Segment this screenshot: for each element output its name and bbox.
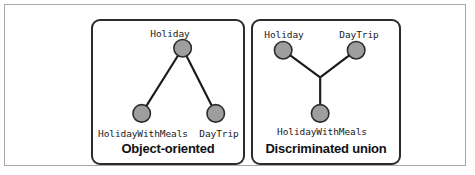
panel-discriminated-union: Holiday DayTrip HolidayWithMeals Discrim… bbox=[251, 19, 401, 165]
edge-holiday-to-holidaywithmeals bbox=[142, 48, 183, 113]
node-daytrip bbox=[207, 105, 225, 123]
node-label-daytrip: DayTrip bbox=[324, 29, 394, 40]
panel-caption-discriminated-union: Discriminated union bbox=[253, 141, 399, 156]
panel-caption-object-oriented: Object-oriented bbox=[93, 141, 243, 156]
node-label-daytrip: DayTrip bbox=[184, 128, 254, 139]
edge-holiday-to-daytrip bbox=[183, 48, 216, 113]
node-holiday bbox=[274, 41, 292, 59]
figure-outer-frame: Holiday HolidayWithMeals DayTrip Object-… bbox=[4, 4, 466, 166]
node-label-holiday: Holiday bbox=[249, 29, 319, 40]
node-label-holidaywithmeals: HolidayWithMeals bbox=[91, 128, 195, 139]
node-holidaywithmeals bbox=[133, 105, 151, 123]
figure-container: Holiday HolidayWithMeals DayTrip Object-… bbox=[0, 0, 475, 175]
node-holiday bbox=[174, 39, 192, 57]
panel-object-oriented: Holiday HolidayWithMeals DayTrip Object-… bbox=[91, 19, 245, 165]
node-holidaywithmeals bbox=[311, 105, 329, 123]
node-label-holidaywithmeals: HolidayWithMeals bbox=[270, 126, 374, 137]
node-label-holiday: Holiday bbox=[93, 28, 247, 39]
node-daytrip bbox=[347, 41, 365, 59]
